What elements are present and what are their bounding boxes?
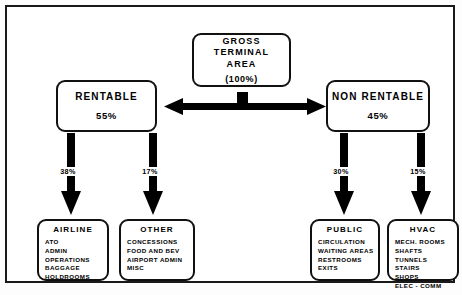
node-gross-terminal-area: GROSS TERMINAL AREA (100%): [192, 33, 291, 87]
list-item: TUNNELS: [395, 256, 457, 265]
node-non-rentable-title: NON RENTABLE: [332, 91, 424, 104]
node-other-list: CONCESSIONSFOOD AND BEVAIRPORT ADMINMISC: [121, 238, 193, 273]
list-item: RESTROOMS: [318, 256, 378, 265]
node-public-title: PUBLIC: [327, 225, 363, 234]
list-item: ELEC - COMM: [395, 282, 457, 291]
list-item: CONCESSIONS: [127, 238, 193, 247]
node-rentable-percent: 55%: [96, 110, 117, 121]
list-item: HOLDROOMS: [45, 273, 107, 282]
list-item: OPERATIONS: [45, 256, 107, 265]
node-other: OTHER CONCESSIONSFOOD AND BEVAIRPORT ADM…: [119, 219, 195, 281]
node-airline: AIRLINE ATOADMINOPERATIONSBAGGAGEHOLDROO…: [37, 219, 109, 281]
node-airline-title: AIRLINE: [53, 225, 93, 234]
node-gross-terminal-area-title: GROSS TERMINAL AREA: [214, 36, 269, 70]
list-item: STAIRS: [395, 264, 457, 273]
split-double-arrow-icon: [159, 92, 331, 120]
node-other-title: OTHER: [140, 225, 174, 234]
node-gross-terminal-area-percent: (100%): [225, 74, 258, 84]
node-hvac-list: MECH. ROOMSSHAFTSTUNNELSSTAIRSSHOPSELEC …: [389, 238, 457, 291]
terminal-area-breakdown-diagram: GROSS TERMINAL AREA (100%) RENTABLE 55% …: [0, 0, 462, 295]
down-arrow-icon-other: [141, 133, 165, 219]
down-arrow-icon-public: [332, 133, 356, 219]
node-non-rentable: NON RENTABLE 45%: [326, 80, 430, 132]
node-public-list: CIRCULATIONWAITING AREASRESTROOMSEXITS: [312, 238, 378, 273]
down-arrow-icon-hvac: [409, 133, 433, 219]
list-item: EXITS: [318, 264, 378, 273]
list-item: FOOD AND BEV: [127, 247, 193, 256]
node-public: PUBLIC CIRCULATIONWAITING AREASRESTROOMS…: [310, 219, 380, 281]
node-non-rentable-percent: 45%: [368, 110, 389, 121]
list-item: ADMIN: [45, 247, 107, 256]
list-item: MISC: [127, 264, 193, 273]
list-item: MECH. ROOMS: [395, 238, 457, 247]
list-item: SHOPS: [395, 273, 457, 282]
node-airline-list: ATOADMINOPERATIONSBAGGAGEHOLDROOMS: [39, 238, 107, 282]
connector-percent-other: 17%: [138, 167, 162, 176]
node-rentable: RENTABLE 55%: [56, 80, 157, 132]
node-rentable-title: RENTABLE: [75, 91, 138, 104]
list-item: BAGGAGE: [45, 264, 107, 273]
node-hvac: HVAC MECH. ROOMSSHAFTSTUNNELSSTAIRSSHOPS…: [387, 219, 459, 281]
list-item: AIRPORT ADMIN: [127, 256, 193, 265]
diagram-frame: GROSS TERMINAL AREA (100%) RENTABLE 55% …: [5, 5, 455, 283]
connector-percent-airline: 38%: [56, 167, 80, 176]
list-item: SHAFTS: [395, 247, 457, 256]
connector-percent-hvac: 15%: [406, 167, 430, 176]
down-arrow-icon-airline: [59, 133, 83, 219]
node-hvac-title: HVAC: [410, 225, 436, 234]
list-item: ATO: [45, 238, 107, 247]
connector-percent-public: 30%: [329, 167, 353, 176]
list-item: CIRCULATION: [318, 238, 378, 247]
list-item: WAITING AREAS: [318, 247, 378, 256]
